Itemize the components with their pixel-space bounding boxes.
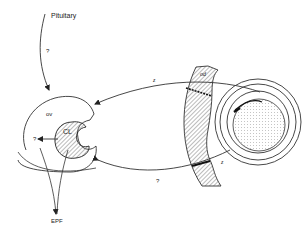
label-oviduct: od (200, 71, 206, 77)
label-top-z: z (153, 77, 155, 83)
cl-to-epf-line-1 (40, 148, 56, 214)
label-ovary: ov (46, 111, 52, 117)
label-corpus-luteum: CL (63, 128, 72, 135)
label-oviduct-bottom-z: z (221, 159, 223, 165)
embryo-stippled-core (233, 99, 285, 151)
diagram-canvas (0, 0, 302, 234)
label-cl-question: ? (33, 136, 36, 142)
label-bottom-question: ? (156, 178, 159, 184)
corpus-luteum (55, 122, 89, 159)
label-pituitary: Pituitary (51, 12, 76, 19)
label-pituitary-question: ? (46, 48, 49, 54)
cl-to-epf-line-2 (57, 150, 68, 214)
label-epf: EPF (51, 218, 63, 224)
